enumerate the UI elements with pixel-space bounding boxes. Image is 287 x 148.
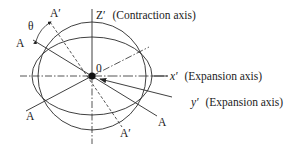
z-axis-label: Z′ (Contraction axis) [96,9,196,22]
line-a2 [26,76,92,111]
line-a-prime [50,22,122,127]
a-prime-lower-label: A′ [120,127,131,139]
y-axis-symbol: y′ [190,96,199,109]
x-axis-label: x′ (Expansion axis) [169,70,262,83]
strain-ellipse-diagram: 0 θ A′ A A A′ A Z′ (Contraction axis) x′… [0,0,287,148]
origin-point [88,72,95,79]
a-prime-upper-label: A′ [50,7,61,19]
y-axis-label: y′ (Expansion axis) [190,96,283,109]
a-upper-label: A [16,37,25,49]
z-axis-description: (Contraction axis) [112,9,196,22]
a2-lower-label: A [26,110,35,122]
theta-label: θ [28,20,34,32]
y-axis-description: (Expansion axis) [206,96,284,109]
x-axis-description: (Expansion axis) [185,70,263,83]
z-axis-symbol: Z′ [96,9,106,21]
theta-arc [36,22,51,41]
x-axis-symbol: x′ [169,70,178,82]
origin-label: 0 [96,62,102,74]
a-lower-label: A [158,116,167,128]
